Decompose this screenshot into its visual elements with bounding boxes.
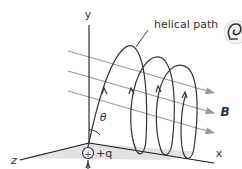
z-axis-label: z bbox=[10, 154, 17, 167]
helical-path-label: helical path bbox=[154, 18, 218, 31]
theta-label: θ bbox=[100, 111, 107, 124]
axes bbox=[20, 25, 214, 163]
helical-path-leader bbox=[136, 30, 148, 47]
charge-symbol: + bbox=[84, 149, 92, 159]
field-label: B bbox=[220, 105, 229, 119]
magnetic-field-lines bbox=[68, 51, 214, 133]
charge-label: +q bbox=[96, 147, 112, 160]
charge: + bbox=[83, 148, 94, 159]
spiral-icon bbox=[224, 20, 242, 44]
y-axis-label: y bbox=[85, 8, 92, 21]
helical-path-diagram: + y z x θ +q B helical path bbox=[0, 0, 242, 169]
x-axis-label: x bbox=[216, 147, 223, 160]
